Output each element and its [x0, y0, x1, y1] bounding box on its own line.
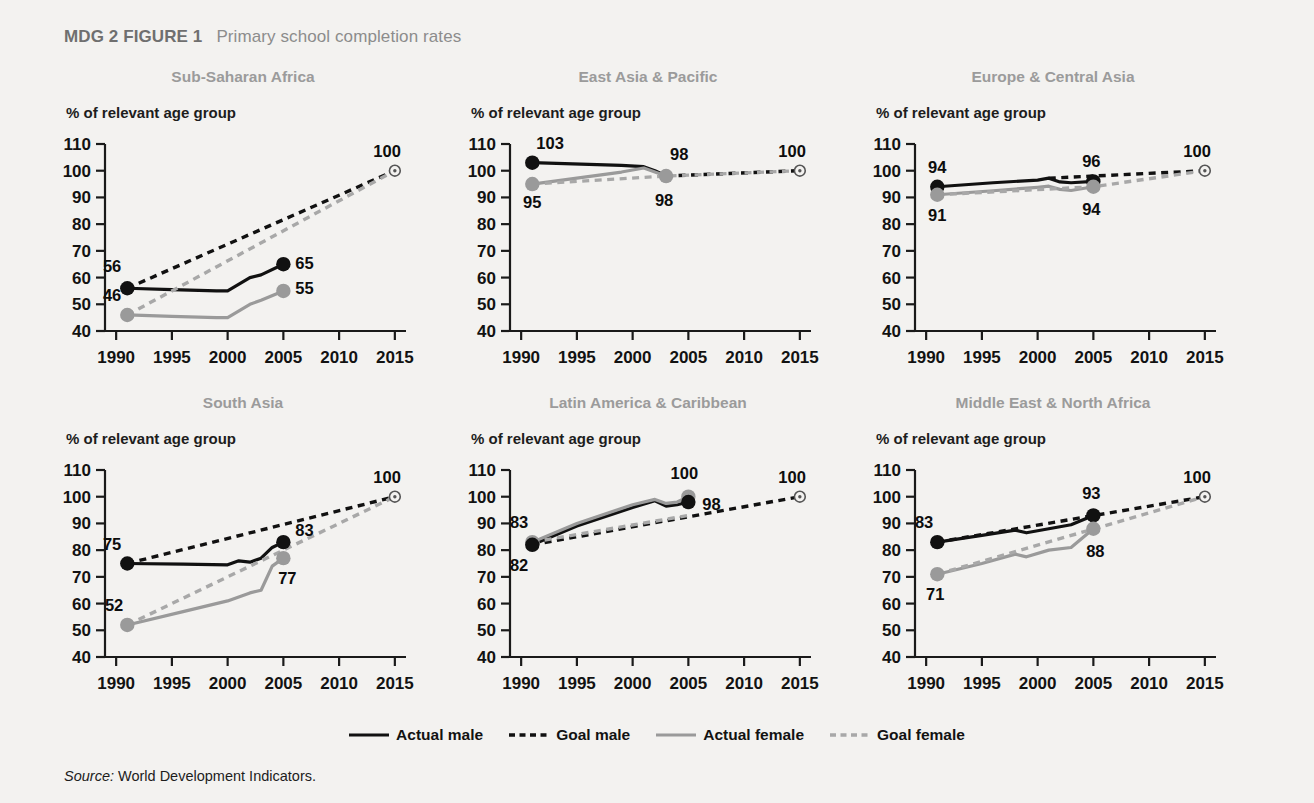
x-axis-tick-label: 2010: [1130, 348, 1168, 367]
x-axis-tick-label: 2000: [614, 348, 652, 367]
chart-y-axis-label: % of relevant age group: [876, 104, 1046, 121]
chart-data-marker: [930, 535, 944, 549]
chart-point-label: 100: [373, 468, 401, 486]
y-axis-tick-label: 70: [882, 242, 901, 261]
y-axis-tick-label: 80: [882, 215, 901, 234]
chart-panel: Middle East & North Africa% of relevant …: [868, 394, 1273, 719]
x-axis-tick-label: 2015: [1186, 348, 1224, 367]
x-axis-tick-label: 2015: [376, 674, 414, 693]
chart-point-label: 98: [670, 145, 688, 163]
chart-y-axis-label: % of relevant age group: [66, 430, 236, 447]
x-axis-tick-label: 2010: [725, 348, 763, 367]
chart-plot-area: 1101009080706050401990199520002005201020…: [868, 126, 1273, 393]
source-label: Source:: [64, 768, 114, 784]
chart-point-label: 100: [1183, 468, 1211, 486]
x-axis-tick-label: 1990: [502, 674, 540, 693]
x-axis-tick-label: 2015: [781, 348, 819, 367]
x-axis-tick-label: 2000: [1019, 348, 1057, 367]
y-axis-tick-label: 110: [64, 135, 91, 154]
y-axis-tick-label: 70: [72, 242, 91, 261]
x-axis-tick-label: 2000: [209, 348, 247, 367]
chart-point-label: 100: [671, 464, 699, 482]
x-axis-tick-label: 2005: [1074, 348, 1112, 367]
chart-panel: South Asia% of relevant age group1101009…: [58, 394, 463, 719]
x-axis-tick-label: 2005: [264, 674, 302, 693]
chart-data-marker: [276, 535, 290, 549]
chart-panel-title: East Asia & Pacific: [463, 68, 833, 86]
chart-point-label: 100: [778, 468, 806, 486]
chart-point-label: 93: [1082, 484, 1100, 502]
y-axis-tick-label: 40: [72, 322, 91, 341]
chart-series-line: [127, 291, 283, 318]
chart-goal-marker: [1199, 165, 1210, 176]
x-axis-tick-label: 1990: [97, 674, 135, 693]
chart-point-label: 71: [926, 585, 944, 603]
y-axis-tick-label: 50: [72, 621, 91, 640]
chart-goal-marker: [389, 165, 400, 176]
chart-point-label: 82: [510, 556, 528, 574]
chart-data-marker: [681, 495, 695, 509]
y-axis-tick-label: 60: [477, 595, 496, 614]
legend-swatch: [349, 729, 389, 741]
y-axis-tick-label: 50: [477, 621, 496, 640]
chart-panel-title: Europe & Central Asia: [868, 68, 1238, 86]
chart-data-marker: [1086, 508, 1100, 522]
figure-title: MDG 2 FIGURE 1Primary school completion …: [64, 27, 461, 47]
chart-series-line: [937, 178, 1093, 187]
y-axis-tick-label: 40: [477, 648, 496, 667]
chart-series-line: [1049, 171, 1205, 178]
chart-goal-marker: [1199, 491, 1210, 502]
chart-point-label: 83: [295, 521, 313, 539]
chart-point-label: 103: [536, 134, 564, 152]
chart-point-label: 83: [915, 513, 933, 531]
chart-point-label: 46: [103, 286, 121, 304]
chart-y-axis-label: % of relevant age group: [66, 104, 236, 121]
chart-data-marker: [120, 308, 134, 322]
chart-panel: Latin America & Caribbean% of relevant a…: [463, 394, 868, 719]
y-axis-tick-label: 110: [64, 461, 91, 480]
chart-point-label: 100: [1183, 142, 1211, 160]
chart-panel: Europe & Central Asia% of relevant age g…: [868, 68, 1273, 393]
y-axis-tick-label: 100: [468, 162, 496, 181]
y-axis-tick-label: 40: [477, 322, 496, 341]
x-axis-tick-label: 1995: [558, 674, 596, 693]
chart-point-label: 65: [295, 254, 313, 272]
chart-series-line: [127, 497, 395, 625]
chart-data-marker: [1086, 180, 1100, 194]
chart-point-label: 55: [295, 279, 313, 297]
chart-data-marker: [525, 156, 539, 170]
y-axis-tick-label: 100: [63, 488, 91, 507]
chart-point-label: 94: [928, 158, 947, 176]
chart-data-marker: [120, 556, 134, 570]
chart-series-line: [127, 497, 395, 564]
x-axis-tick-label: 2010: [320, 674, 358, 693]
y-axis-tick-label: 110: [874, 461, 901, 480]
x-axis-tick-label: 2015: [376, 348, 414, 367]
source-note: Source: World Development Indicators.: [64, 768, 316, 784]
x-axis-tick-label: 1990: [907, 674, 945, 693]
chart-y-axis-label: % of relevant age group: [876, 430, 1046, 447]
y-axis-tick-label: 90: [477, 514, 496, 533]
x-axis-tick-label: 1995: [153, 674, 191, 693]
chart-data-marker: [659, 169, 673, 183]
chart-plot-area: 1101009080706050401990199520002005201020…: [58, 126, 463, 393]
y-axis-tick-label: 60: [477, 269, 496, 288]
y-axis-tick-label: 40: [882, 322, 901, 341]
chart-data-marker: [525, 177, 539, 191]
y-axis-tick-label: 90: [72, 514, 91, 533]
figure-title-text: Primary school completion rates: [216, 27, 461, 46]
legend: Actual maleGoal maleActual femaleGoal fe…: [0, 722, 1314, 748]
chart-panel-title: Sub-Saharan Africa: [58, 68, 428, 86]
y-axis-tick-label: 70: [477, 568, 496, 587]
chart-data-marker: [276, 257, 290, 271]
chart-series-line: [532, 515, 688, 542]
y-axis-tick-label: 60: [882, 269, 901, 288]
chart-y-axis-label: % of relevant age group: [471, 104, 641, 121]
x-axis-tick-label: 2010: [1130, 674, 1168, 693]
legend-swatch: [509, 729, 549, 741]
legend-label: Actual male: [396, 726, 483, 744]
x-axis-tick-label: 1995: [963, 348, 1001, 367]
legend-label: Goal female: [877, 726, 965, 744]
y-axis-tick-label: 100: [873, 162, 901, 181]
chart-goal-marker: [794, 165, 805, 176]
